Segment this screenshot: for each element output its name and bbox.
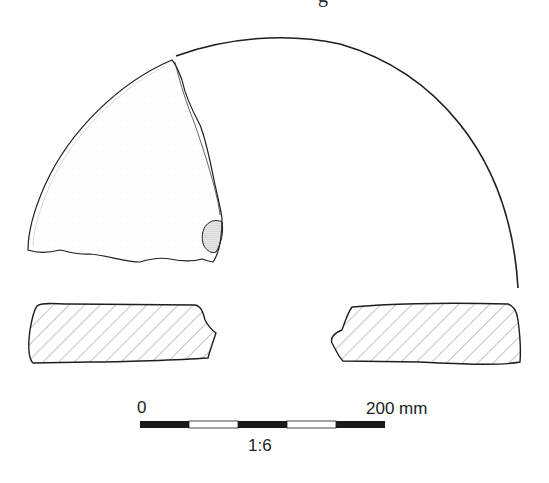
scale-end-label: 200 mm xyxy=(366,400,427,417)
scale-bar xyxy=(140,421,385,428)
section-right xyxy=(331,303,520,364)
scale-start-label: 0 xyxy=(137,399,146,416)
archaeological-drawing: g xyxy=(0,0,549,483)
scale-ratio-label: 1:6 xyxy=(248,437,272,454)
section-left xyxy=(29,304,216,364)
rim-diameter-arc xyxy=(176,38,518,288)
sherd-plan-view xyxy=(28,60,223,262)
